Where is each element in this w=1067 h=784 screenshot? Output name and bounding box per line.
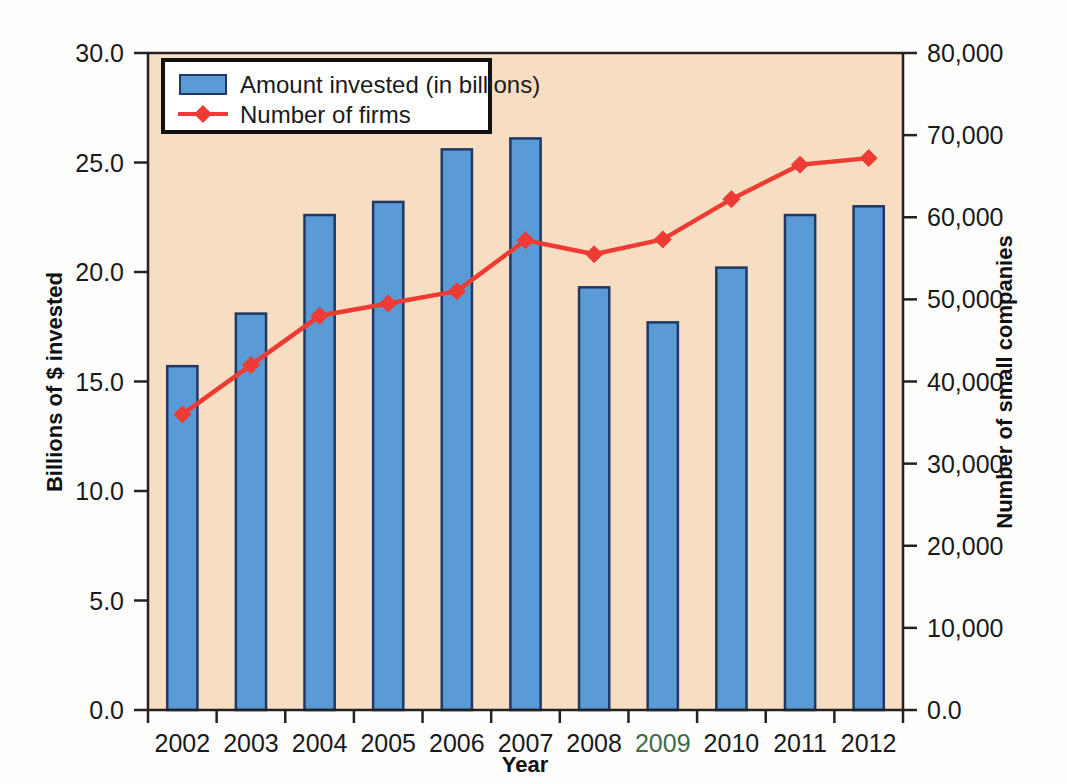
x-tick-label-2005: 2005: [360, 729, 416, 757]
left-tick-label-15.0: 15.0: [75, 368, 124, 396]
left-tick-label-20.0: 20.0: [75, 258, 124, 286]
bar-2007: [510, 138, 540, 710]
x-tick-label-2011: 2011: [773, 729, 827, 757]
x-tick-label-2006: 2006: [429, 729, 485, 757]
bar-2012: [854, 206, 884, 710]
left-tick-label-5.0: 5.0: [89, 587, 124, 615]
x-tick-label-2008: 2008: [566, 729, 622, 757]
legend-label-amount-invested: Amount invested (in billions): [240, 71, 540, 98]
left-axis-title: Billions of $ invested: [42, 272, 67, 492]
right-tick-label-20,000: 20,000: [927, 532, 1003, 560]
x-axis-title: Year: [502, 752, 549, 777]
bar-2006: [442, 149, 472, 710]
bar-2005: [373, 202, 403, 710]
right-axis-title: Number of small companies: [992, 235, 1017, 528]
x-tick-label-2010: 2010: [704, 729, 760, 757]
chart-legend: Amount invested (in billions) Number of …: [163, 60, 540, 132]
bar-2010: [716, 268, 746, 710]
x-tick-label-2002: 2002: [155, 729, 211, 757]
x-tick-label-2012: 2012: [841, 729, 897, 757]
right-tick-label-60,000: 60,000: [927, 203, 1003, 231]
left-tick-label-0.0: 0.0: [89, 696, 124, 724]
chart-figure: 0.05.010.015.020.025.030.0 0.010,00020,0…: [0, 0, 1067, 784]
bar-2011: [785, 215, 815, 710]
bar-2009: [648, 322, 678, 710]
bar-2004: [304, 215, 334, 710]
dual-axis-bar-line-chart: 0.05.010.015.020.025.030.0 0.010,00020,0…: [0, 0, 1067, 784]
legend-bar-swatch-icon: [180, 75, 226, 94]
legend-label-number-of-firms: Number of firms: [240, 101, 411, 128]
x-tick-label-2009: 2009: [635, 729, 691, 757]
x-tick-label-2003: 2003: [223, 729, 279, 757]
right-tick-label-80,000: 80,000: [927, 39, 1003, 67]
left-tick-label-25.0: 25.0: [75, 149, 124, 177]
bar-2008: [579, 287, 609, 710]
right-tick-label-10,000: 10,000: [927, 614, 1003, 642]
left-tick-label-30.0: 30.0: [75, 39, 124, 67]
right-tick-label-70,000: 70,000: [927, 121, 1003, 149]
left-tick-label-10.0: 10.0: [75, 477, 124, 505]
x-tick-label-2004: 2004: [292, 729, 348, 757]
right-tick-label-0.0: 0.0: [927, 696, 962, 724]
